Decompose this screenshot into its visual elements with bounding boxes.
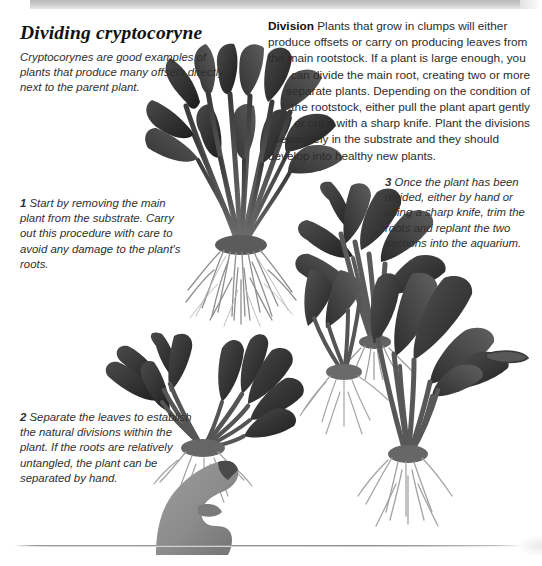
step-2-text: Separate the leaves to establish the nat…: [20, 411, 192, 484]
step-3-text: Once the plant has been divided, either …: [385, 176, 525, 249]
page-title: Dividing cryptocoryne: [20, 22, 202, 44]
body-line-3: the main rootstock. If a plant is large …: [268, 50, 530, 66]
step-1-number: 1: [20, 197, 26, 209]
step-3-number: 3: [385, 176, 391, 188]
intro-caption: Cryptocorynes are good examples of plant…: [20, 50, 230, 96]
page-corner-fold: [518, 536, 542, 556]
step-2-caption: 2 Separate the leaves to establish the n…: [20, 410, 200, 486]
step-3-caption: 3 Once the plant has been divided, eithe…: [385, 175, 535, 251]
body-line-1: Division Plants that grow in clumps will…: [268, 18, 530, 34]
page-top-band: [30, 0, 528, 9]
step-1-caption: 1 Start by removing the main plant from …: [20, 196, 190, 272]
body-line-6: the rootstock, either pull the plant apa…: [268, 99, 530, 115]
body-line-5: separate plants. Depending on the condit…: [268, 83, 530, 99]
body-line-8: separately in the substrate and they sho…: [268, 131, 530, 147]
body-line-2: produce offsets or carry on producing le…: [268, 34, 530, 50]
two-replanted-divisions-with-roots: [300, 270, 530, 545]
document-page: Dividing cryptocoryne Cryptocorynes are …: [0, 0, 542, 566]
body-line-1-text: Plants that grow in clumps will either: [317, 19, 507, 33]
step-2-number: 2: [20, 411, 26, 423]
body-line-9: develop into healthy new plants.: [268, 148, 530, 164]
body-line-7: or cut it with a sharp knife. Plant the …: [268, 115, 530, 131]
page-top-band-fade: [520, 0, 542, 9]
page-bottom-rule-shadow: [14, 546, 526, 547]
division-body-text: Division Plants that grow in clumps will…: [268, 18, 530, 164]
body-line-4: can divide the main root, creating two o…: [268, 67, 530, 83]
body-lead-word: Division: [268, 19, 314, 33]
step-1-text: Start by removing the main plant from th…: [20, 197, 181, 270]
